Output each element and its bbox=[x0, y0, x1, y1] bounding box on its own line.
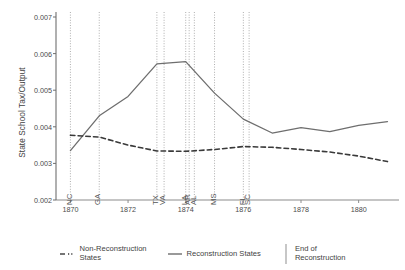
solid-line-icon bbox=[167, 248, 183, 260]
series-line-reconstruction bbox=[70, 62, 387, 151]
x-tick-label: 1880 bbox=[351, 205, 367, 214]
y-tick-label: 0.005 bbox=[18, 86, 52, 95]
y-tick-label: 0.006 bbox=[18, 49, 52, 58]
x-tick-label: 1874 bbox=[178, 205, 194, 214]
y-tick-label: 0.007 bbox=[18, 13, 52, 22]
state-label-va: VA bbox=[158, 195, 167, 205]
state-label-nc: NC bbox=[65, 194, 74, 205]
state-label-ms: MS bbox=[209, 193, 218, 205]
legend-item-end-of-reconstruction: End of Reconstruction bbox=[281, 243, 346, 265]
y-tick-label: 0.002 bbox=[18, 196, 52, 205]
chart-figure: State School Tax/Output 0.0020.0030.0040… bbox=[0, 0, 405, 270]
x-tick-label: 1876 bbox=[235, 205, 251, 214]
y-tick-label: 0.003 bbox=[18, 159, 52, 168]
chart-legend: Non-Reconstruction States Reconstruction… bbox=[0, 238, 405, 270]
legend-label-line1: Reconstruction States bbox=[187, 250, 261, 259]
legend-item-reconstruction: Reconstruction States bbox=[167, 248, 261, 260]
x-tick-label: 1878 bbox=[293, 205, 309, 214]
legend-label-line2: Reconstruction bbox=[295, 254, 346, 263]
state-label-sc: SC bbox=[243, 194, 252, 205]
dashed-line-icon bbox=[59, 248, 75, 260]
state-label-ga: GA bbox=[93, 194, 102, 205]
y-tick-label: 0.004 bbox=[18, 122, 52, 131]
vertical-rule-icon bbox=[281, 243, 291, 265]
series-line-non-reconstruction bbox=[70, 135, 387, 161]
x-tick-label: 1872 bbox=[120, 205, 136, 214]
x-tick-label: 1870 bbox=[62, 205, 78, 214]
legend-item-non-reconstruction: Non-Reconstruction States bbox=[59, 245, 146, 263]
plot-area bbox=[0, 0, 405, 270]
state-label-al: AL bbox=[189, 195, 198, 205]
legend-label-line2: States bbox=[79, 254, 146, 263]
